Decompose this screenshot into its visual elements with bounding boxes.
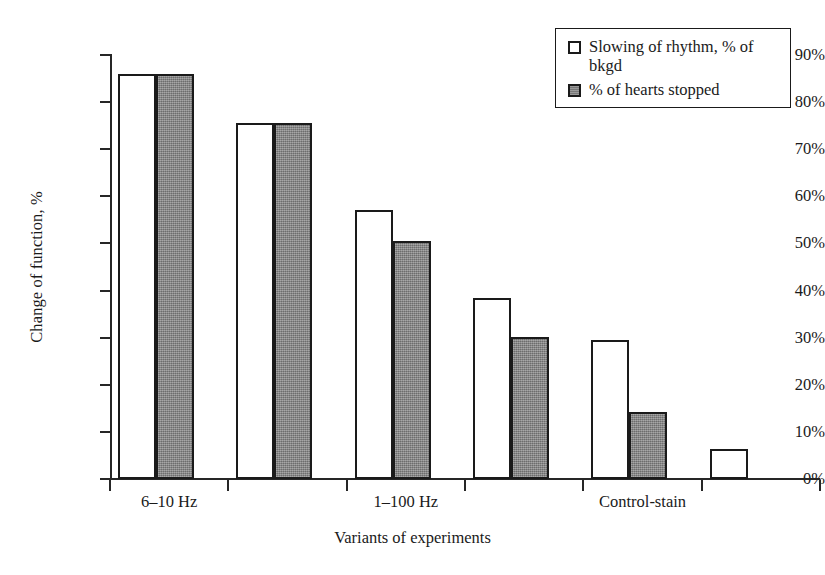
- x-axis-tick: [346, 480, 348, 491]
- x-axis-tick: [582, 480, 584, 491]
- legend-label: Slowing of rhythm, % of bkgd: [589, 37, 780, 76]
- bar: [473, 298, 511, 479]
- bar: [274, 123, 312, 479]
- bar: [156, 74, 194, 479]
- bar-chart: Change of function, % 0%10%20%30%40%50%6…: [0, 0, 825, 575]
- bar: [591, 340, 629, 479]
- bar: [236, 123, 274, 479]
- plot-area: [110, 55, 820, 479]
- x-axis-category-label: 1–100 Hz: [374, 492, 439, 512]
- y-axis-title: Change of function, %: [27, 127, 47, 407]
- y-axis-tick: [100, 195, 110, 197]
- x-axis-tick: [819, 480, 821, 491]
- x-axis-tick: [109, 480, 111, 491]
- legend: Slowing of rhythm, % of bkgd % of hearts…: [555, 28, 791, 108]
- legend-swatch-gray-icon: [568, 84, 581, 97]
- bar: [511, 337, 549, 479]
- legend-label: % of hearts stopped: [589, 80, 720, 99]
- x-axis-title: Variants of experiments: [0, 528, 825, 548]
- bar: [629, 412, 667, 479]
- y-axis-tick: [100, 431, 110, 433]
- bar: [393, 241, 431, 479]
- bar: [355, 210, 393, 479]
- y-axis-tick: [100, 242, 110, 244]
- legend-swatch-white-icon: [568, 41, 581, 54]
- legend-item: % of hearts stopped: [568, 80, 780, 99]
- x-axis-category-label: 6–10 Hz: [141, 492, 197, 512]
- x-axis-tick: [227, 480, 229, 491]
- bar: [118, 74, 156, 479]
- x-axis-tick: [701, 480, 703, 491]
- y-axis-tick: [100, 54, 110, 56]
- y-axis-tick: [100, 101, 110, 103]
- bar: [710, 449, 748, 479]
- legend-item: Slowing of rhythm, % of bkgd: [568, 37, 780, 76]
- y-axis-tick: [100, 148, 110, 150]
- y-axis-tick: [100, 384, 110, 386]
- y-axis-tick: [100, 337, 110, 339]
- y-axis-tick: [100, 290, 110, 292]
- x-axis-category-label: Control-stain: [599, 492, 686, 512]
- x-axis-tick: [464, 480, 466, 491]
